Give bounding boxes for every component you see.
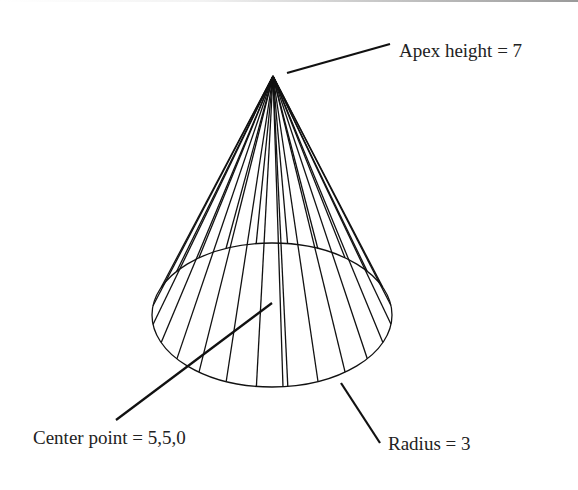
- cone-generator-line: [256, 76, 273, 386]
- center-leader-line: [116, 303, 272, 420]
- radius-leader-line: [341, 383, 380, 443]
- cone-generator-line: [273, 76, 345, 258]
- apex-leader-line: [287, 44, 390, 73]
- radius-label: Radius = 3: [388, 433, 471, 454]
- cone-generator-line: [273, 76, 391, 306]
- cone-generator-line: [273, 76, 367, 359]
- cone-diagram: Apex height = 7 Center point = 5,5,0 Rad…: [0, 0, 578, 490]
- cone-generator-line: [226, 76, 273, 249]
- cone-generator-line: [199, 76, 273, 258]
- apex-height-label: Apex height = 7: [399, 40, 522, 61]
- center-point-label: Center point = 5,5,0: [33, 427, 186, 448]
- cone-generator-lines: [153, 76, 391, 387]
- cone-generator-line: [273, 76, 283, 387]
- cone-generator-line: [199, 76, 273, 372]
